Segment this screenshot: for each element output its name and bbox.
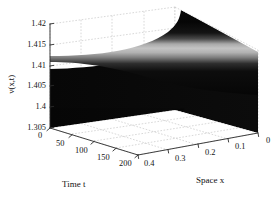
t-tick-label: 0 — [38, 132, 42, 140]
t-tick-label: 150 — [97, 154, 110, 162]
x-tick-label: 0.3 — [175, 155, 185, 163]
t-tick-label: 100 — [75, 147, 88, 155]
z-tick-label: 1.41 — [20, 62, 46, 70]
z-tick-label: 1.415 — [14, 41, 46, 49]
x-tick-label: 0.1 — [235, 143, 245, 151]
t-tick-label: 50 — [56, 140, 64, 148]
x-tick-label: 0 — [266, 137, 270, 145]
surface-plot-figure: 1.42 1.415 1.41 1.405 1.4 1.305 0 50 100… — [0, 0, 278, 203]
x-tick-label: 0.2 — [205, 149, 215, 157]
t-tick-label: 200 — [119, 160, 132, 168]
x-axis-title: Space x — [196, 176, 224, 185]
t-axis-title: Time t — [62, 180, 85, 189]
z-tick-label: 1.4 — [22, 103, 46, 111]
x-tick-label: 0.4 — [144, 160, 154, 168]
z-tick-label: 1.42 — [20, 20, 46, 28]
z-axis-title-wrap: v(x,t) — [2, 58, 20, 118]
z-axis-title: v(x,t) — [7, 56, 16, 112]
